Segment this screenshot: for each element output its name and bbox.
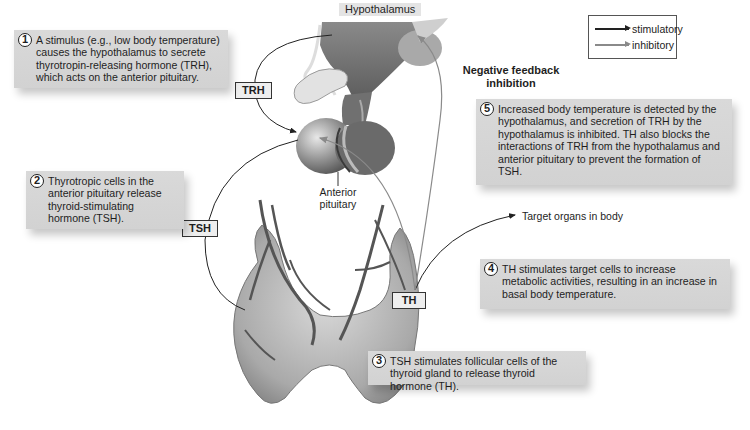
target-organs-label: Target organs in body (522, 210, 623, 222)
step-callout-2: 2 Thyrotropic cells in the anterior pitu… (26, 171, 184, 229)
step-text: A stimulus (e.g., low body temperature) … (36, 34, 220, 83)
inhibitory-arrow-icon (595, 44, 629, 46)
step-text: Increased body temperature is detected b… (498, 103, 720, 177)
hypothalamus-label: Hypothalamus (339, 3, 421, 16)
legend-item-inhibitory: inhibitory (595, 38, 674, 52)
legend-label-inhibitory: inhibitory (632, 39, 674, 51)
legend: stimulatory inhibitory (588, 15, 677, 59)
step-callout-3: 3 TSH stimulates follicular cells of the… (368, 351, 586, 385)
step-number-badge: 3 (372, 354, 386, 368)
step-number-badge: 5 (480, 102, 494, 116)
legend-item-stimulatory: stimulatory (595, 22, 683, 36)
step-callout-4: 4 TH stimulates target cells to increase… (480, 259, 730, 309)
hormone-tag-th: TH (392, 292, 426, 309)
stimulatory-arrow-icon (595, 28, 629, 30)
pituitary-shape (296, 118, 395, 186)
step-text: Thyrotropic cells in the anterior pituit… (48, 175, 162, 224)
step-callout-1: 1 A stimulus (e.g., low body temperature… (14, 30, 228, 88)
anterior-pituitary-label-line1: Anterior (316, 186, 360, 198)
step-number-badge: 4 (484, 262, 498, 276)
feedback-hypothalamus-pathway (415, 36, 442, 290)
step-callout-5: 5 Increased body temperature is detected… (476, 99, 732, 185)
negative-feedback-label-line2: inhibition (451, 77, 571, 90)
hormone-tag-tsh: TSH (182, 220, 218, 237)
anterior-pituitary-label: Anterior pituitary (316, 186, 360, 210)
hypothalamus-shape (294, 18, 448, 128)
negative-feedback-label: Negative feedback inhibition (451, 64, 571, 90)
negative-feedback-label-line1: Negative feedback (451, 64, 571, 77)
step-number-badge: 2 (30, 174, 44, 188)
anterior-pituitary-label-line2: pituitary (316, 198, 360, 210)
step-number-badge: 1 (18, 33, 32, 47)
hormone-tag-trh: TRH (235, 82, 272, 99)
step-text: TH stimulates target cells to increase m… (502, 263, 717, 300)
legend-label-stimulatory: stimulatory (632, 23, 683, 35)
